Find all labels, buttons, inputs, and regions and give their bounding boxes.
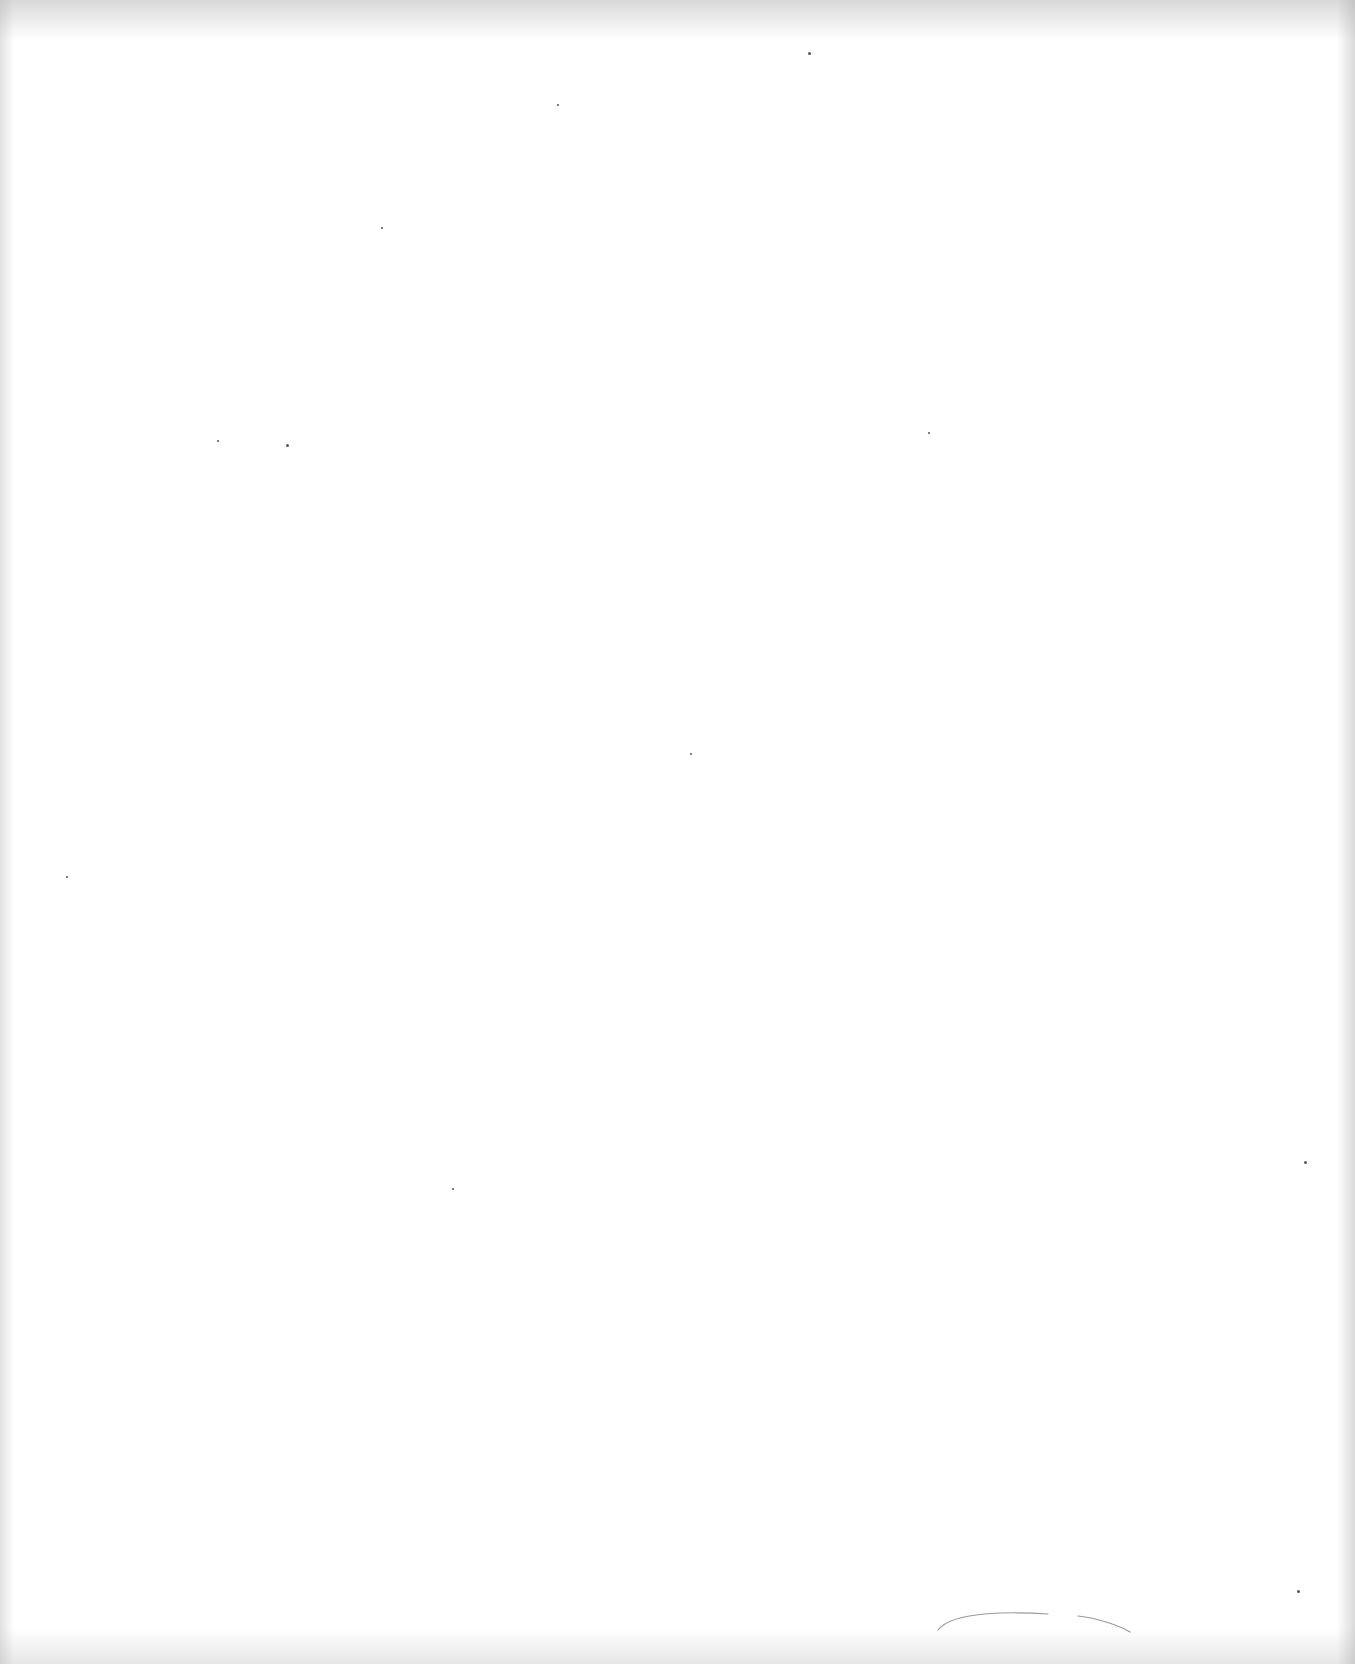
scanned-page — [0, 0, 1355, 1664]
pencil-stroke — [0, 0, 1355, 1664]
